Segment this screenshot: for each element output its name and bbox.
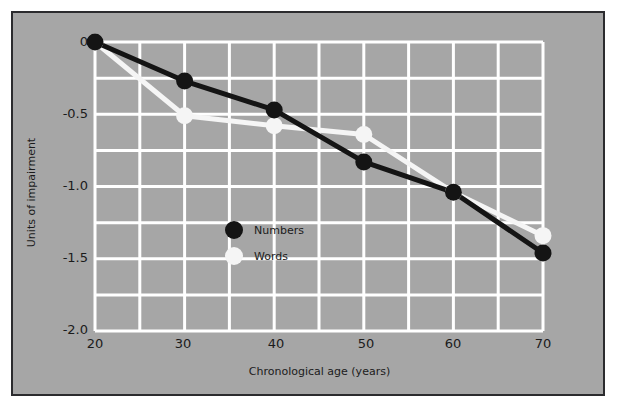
y-tick-label-4: -2.0	[44, 322, 88, 337]
figure: 0 -0.5 -1.0 -1.5 -2.0 20 30 40 50 60 70 …	[0, 0, 617, 420]
legend-label-words: Words	[254, 250, 288, 263]
y-tick-label-0: 0	[52, 34, 88, 49]
x-tick-label-50: 50	[352, 336, 380, 351]
x-tick-label-60: 60	[439, 336, 467, 351]
x-axis-title: Chronological age (years)	[95, 365, 544, 378]
x-tick-label-70: 70	[529, 336, 557, 351]
y-tick-label-1: -0.5	[44, 106, 88, 121]
x-tick-label-20: 20	[81, 336, 109, 351]
x-tick-label-30: 30	[169, 336, 197, 351]
y-tick-label-3: -1.5	[44, 250, 88, 265]
legend-label-numbers: Numbers	[254, 224, 304, 237]
y-tick-label-2: -1.0	[44, 178, 88, 193]
x-tick-label-40: 40	[262, 336, 290, 351]
y-axis-title: Units of impairment	[25, 118, 38, 268]
